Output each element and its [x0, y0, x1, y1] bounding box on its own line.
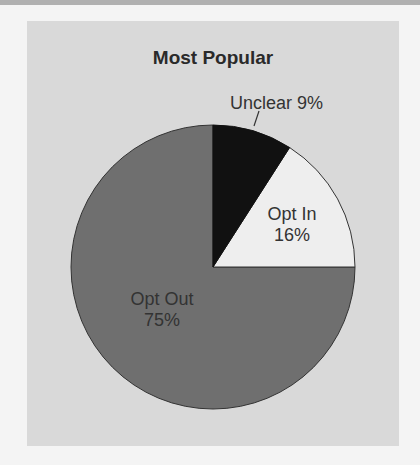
opt-out-name: Opt Out	[117, 289, 207, 310]
top-band	[0, 0, 420, 5]
opt-in-pct: 16%	[257, 225, 327, 246]
chart-panel: Most Popular Unclear 9% Opt In 16% Opt O…	[27, 21, 399, 446]
label-unclear: Unclear 9%	[230, 93, 323, 114]
label-opt-out: Opt Out 75%	[117, 289, 207, 331]
label-opt-in: Opt In 16%	[257, 204, 327, 246]
opt-in-name: Opt In	[257, 204, 327, 225]
opt-out-pct: 75%	[117, 310, 207, 331]
pie-chart	[27, 21, 399, 446]
